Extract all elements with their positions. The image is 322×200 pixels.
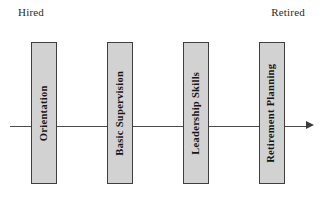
timeline-end-label: Retired [271, 6, 305, 18]
timeline-arrow-icon [306, 121, 314, 129]
timeline-stage-label: Leadership Skills [191, 72, 202, 155]
timeline-stage-box: Basic Supervision [107, 42, 133, 184]
timeline-stage-box: Retirement Planning [259, 42, 285, 184]
timeline-start-label: Hired [18, 6, 44, 18]
timeline-stage-box: Leadership Skills [183, 42, 209, 184]
timeline-diagram: Hired Retired Orientation Basic Supervis… [0, 0, 322, 200]
timeline-stage-label: Orientation [39, 85, 50, 141]
timeline-stage-label: Retirement Planning [267, 63, 278, 162]
timeline-stage-label: Basic Supervision [115, 71, 126, 156]
timeline-stage-box: Orientation [31, 42, 57, 184]
